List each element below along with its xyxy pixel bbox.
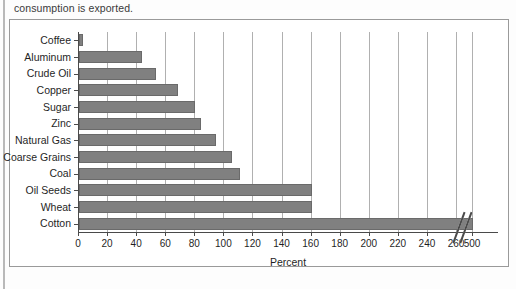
x-axis-tick-500	[472, 232, 473, 236]
x-axis-tick-label-0: 0	[75, 238, 81, 249]
bar-crude-oil	[79, 68, 156, 80]
y-axis-tick	[74, 207, 78, 208]
x-axis-tick-240	[427, 232, 428, 236]
x-axis-tick-60	[165, 232, 166, 236]
y-axis-tick	[74, 190, 78, 191]
category-label-crude-oil: Crude Oil	[27, 65, 71, 82]
x-axis-tick-120	[252, 232, 253, 236]
bar-row: Wheat	[78, 199, 498, 216]
x-axis-tick-label-80: 80	[189, 238, 200, 249]
x-axis-tick-80	[194, 232, 195, 236]
page-margin-rule	[3, 0, 5, 289]
x-axis-tick-140	[282, 232, 283, 236]
x-axis-tick-200	[369, 232, 370, 236]
x-axis-tick-label-180: 180	[331, 238, 348, 249]
category-label-cotton: Cotton	[40, 215, 71, 232]
x-axis-tick-label-60: 60	[160, 238, 171, 249]
category-label-aluminum: Aluminum	[24, 49, 71, 66]
caption-tail-text: consumption is exported.	[14, 2, 133, 14]
x-axis-tick-label-160: 160	[302, 238, 319, 249]
plot-area: CoffeeAluminumCrude OilCopperSugarZincNa…	[78, 32, 498, 244]
x-axis-tick-label-120: 120	[244, 238, 261, 249]
bar-cotton	[79, 218, 473, 230]
y-axis-tick	[74, 90, 78, 91]
bar-oil-seeds	[79, 184, 312, 196]
bar-row: Coarse Grains	[78, 149, 498, 166]
category-label-coffee: Coffee	[40, 32, 71, 49]
x-axis-tick-40	[136, 232, 137, 236]
category-label-zinc: Zinc	[51, 115, 71, 132]
bar-row: Natural Gas	[78, 132, 498, 149]
bar-wheat	[79, 201, 312, 213]
x-axis-tick-220	[398, 232, 399, 236]
bar-row: Aluminum	[78, 49, 498, 66]
bar-row: Coffee	[78, 32, 498, 49]
bar-row: Copper	[78, 82, 498, 99]
bar-row: Oil Seeds	[78, 182, 498, 199]
x-axis-tick-0	[78, 232, 79, 236]
category-label-wheat: Wheat	[41, 199, 71, 216]
category-label-copper: Copper	[37, 82, 71, 99]
y-axis-tick	[74, 157, 78, 158]
bar-row: Cotton	[78, 215, 498, 232]
x-axis-tick-label-20: 20	[102, 238, 113, 249]
bar-row: Zinc	[78, 115, 498, 132]
category-label-oil-seeds: Oil Seeds	[25, 182, 71, 199]
category-label-coal: Coal	[49, 165, 71, 182]
bar-copper	[79, 84, 178, 96]
x-axis-tick-180	[340, 232, 341, 236]
bar-coffee	[79, 34, 83, 46]
x-axis-tick-label-500: 500	[464, 238, 481, 249]
y-axis-tick	[74, 74, 78, 75]
bar-coarse-grains	[79, 151, 232, 163]
category-label-coarse-grains: Coarse Grains	[3, 149, 71, 166]
page-canvas: consumption is exported. CoffeeAluminumC…	[0, 0, 516, 289]
y-axis-tick	[74, 140, 78, 141]
y-axis-tick	[74, 57, 78, 58]
bar-row: Crude Oil	[78, 65, 498, 82]
bar-row: Sugar	[78, 99, 498, 116]
bar-row: Coal	[78, 165, 498, 182]
y-axis-tick	[74, 124, 78, 125]
x-axis-line	[78, 232, 498, 233]
category-label-natural-gas: Natural Gas	[15, 132, 71, 149]
bar-sugar	[79, 101, 195, 113]
y-axis-tick	[74, 174, 78, 175]
x-axis-tick-20	[107, 232, 108, 236]
bar-coal	[79, 168, 240, 180]
y-axis-tick	[74, 224, 78, 225]
bar-natural-gas	[79, 134, 216, 146]
y-axis-tick	[74, 40, 78, 41]
y-axis-tick	[74, 107, 78, 108]
bar-zinc	[79, 118, 201, 130]
x-axis-tick-label-100: 100	[215, 238, 232, 249]
chart-figure: CoffeeAluminumCrude OilCopperSugarZincNa…	[9, 19, 509, 267]
x-axis-tick-label-220: 220	[390, 238, 407, 249]
x-axis-tick-label-240: 240	[419, 238, 436, 249]
bar-aluminum	[79, 51, 142, 63]
category-label-sugar: Sugar	[43, 99, 71, 116]
x-axis-tick-label-140: 140	[273, 238, 290, 249]
x-axis-tick-label-200: 200	[360, 238, 377, 249]
x-axis-tick-label-40: 40	[131, 238, 142, 249]
x-axis-title: Percent	[78, 256, 498, 268]
x-axis-tick-100	[223, 232, 224, 236]
x-axis-tick-160	[311, 232, 312, 236]
